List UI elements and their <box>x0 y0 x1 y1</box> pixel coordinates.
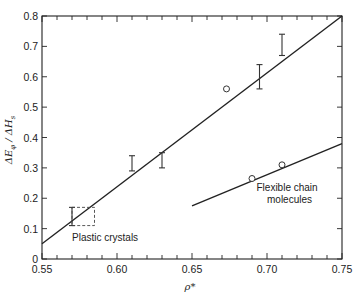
x-tick-label: 0.65 <box>182 263 203 275</box>
data-point-circle <box>279 162 285 168</box>
y-tick-label: 0 <box>32 253 38 265</box>
chart: 0.550.600.650.700.75 00.10.20.30.40.50.6… <box>0 0 359 295</box>
series-plastic-crystals <box>42 16 342 244</box>
data-point-circle <box>224 86 230 92</box>
y-tick-label: 0.1 <box>23 223 38 235</box>
annotation-plastic-crystals: Plastic crystals <box>72 232 138 243</box>
x-tick-label: 0.60 <box>107 263 128 275</box>
axis-ticks <box>42 16 342 259</box>
y-tick-label: 0.4 <box>23 132 38 144</box>
x-tick-label: 0.75 <box>332 263 353 275</box>
dashed-box <box>72 207 95 225</box>
y-tick-label: 0.3 <box>23 162 38 174</box>
y-axis-label: ΔEφ / ΔHs <box>3 115 17 165</box>
data-series <box>42 16 342 244</box>
annotation-flexible-chain: Flexible chain <box>257 182 318 193</box>
y-tick-labels: 00.10.20.30.40.50.60.70.8 <box>23 10 38 265</box>
svg-text:ΔEφ / ΔHs: ΔEφ / ΔHs <box>3 115 17 165</box>
y-tick-label: 0.5 <box>23 101 38 113</box>
y-tick-label: 0.2 <box>23 192 38 204</box>
annotations: Plastic crystalsFlexible chainmolecules <box>72 182 318 243</box>
y-tick-label: 0.7 <box>23 40 38 52</box>
plot-border <box>42 16 342 259</box>
y-tick-label: 0.6 <box>23 71 38 83</box>
fit-line <box>42 16 342 244</box>
x-tick-labels: 0.550.600.650.700.75 <box>32 263 353 275</box>
x-axis-label: ρ* <box>184 281 196 292</box>
y-tick-label: 0.8 <box>23 10 38 22</box>
plot-frame <box>42 16 342 259</box>
x-tick-label: 0.70 <box>257 263 278 275</box>
data-point-circle <box>249 176 255 182</box>
annotation-molecules: molecules <box>267 194 312 205</box>
